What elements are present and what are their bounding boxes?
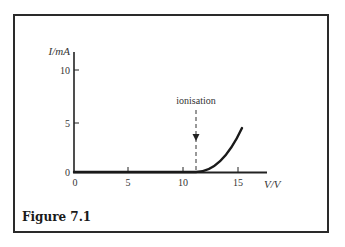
x-tick-label-10: 10 [178,177,188,188]
x-tick-label-5: 5 [126,177,131,188]
y-tick-label-10: 10 [60,65,70,76]
x-tick-label-0: 0 [73,177,78,188]
figure-caption: Figure 7.1 [22,210,91,224]
iv-curve [74,128,242,172]
x-axis-label: V/V [264,178,282,190]
y-tick-label-5: 5 [65,118,70,129]
arrow-down-icon [193,134,200,141]
y-axis-label: I/mA [48,45,71,57]
ionisation-label: ionisation [176,95,215,106]
y-tick-label-0: 0 [65,167,70,178]
x-tick-label-15: 15 [233,177,243,188]
